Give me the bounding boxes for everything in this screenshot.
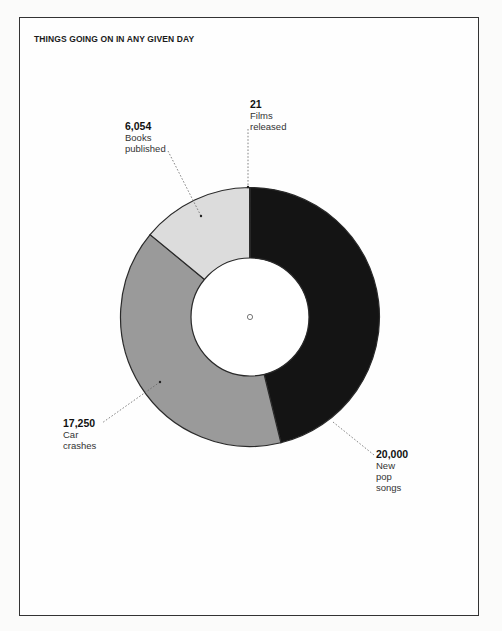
label-car-crashes: 17,250 Car crashes bbox=[63, 418, 96, 451]
label-books-published: 6,054 Books published bbox=[125, 121, 166, 154]
label-pop-songs: 20,000 New pop songs bbox=[376, 449, 408, 493]
leader-cars bbox=[102, 382, 160, 423]
label-value: 20,000 bbox=[376, 449, 408, 460]
label-value: 21 bbox=[250, 99, 286, 110]
donut-hole bbox=[191, 258, 309, 376]
donut-chart bbox=[0, 0, 502, 631]
label-value: 6,054 bbox=[125, 121, 166, 132]
label-films-released: 21 Films released bbox=[250, 99, 286, 132]
label-value: 17,250 bbox=[63, 418, 96, 429]
leader-pop bbox=[333, 422, 374, 455]
